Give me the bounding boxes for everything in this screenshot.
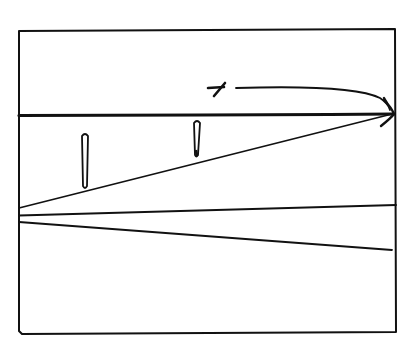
rising-diagonal — [19, 114, 392, 208]
curved-arrow — [236, 87, 390, 110]
marker-left-icon — [82, 134, 88, 188]
lower-line-2 — [19, 222, 392, 250]
lower-line-1 — [19, 205, 396, 216]
marker-right-tip — [196, 150, 197, 156]
horizontal-line — [19, 114, 394, 116]
diagram-canvas — [0, 0, 413, 353]
x-glyph-icon — [208, 83, 225, 96]
frame-border — [19, 29, 396, 334]
